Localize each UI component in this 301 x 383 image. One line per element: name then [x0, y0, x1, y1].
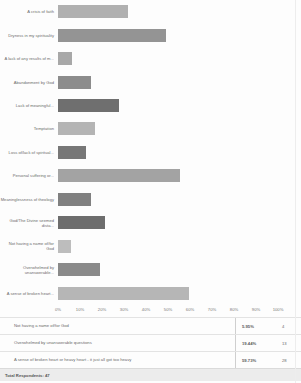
x-axis: 0%10%20%30%40%50%60%70%80%90%100% [58, 305, 301, 317]
bar-track [58, 164, 301, 187]
bar[interactable] [58, 216, 105, 229]
bar-track [58, 117, 301, 140]
bar[interactable] [58, 29, 166, 42]
bar-track [58, 211, 301, 234]
chart-row: A sense of broken heart... [0, 281, 301, 304]
bar-track [58, 281, 301, 304]
bar-track [58, 258, 301, 281]
chart-row: Lack of meaningful... [0, 94, 301, 117]
total-respondents-label: Total Respondents: 47 [0, 373, 50, 378]
table-row: A sense of broken heart or heavy heart -… [0, 351, 301, 368]
results-table: Not having a name of/for God5.95%4Overwh… [0, 317, 301, 381]
chart-row: Loss of/lack of spiritual... [0, 141, 301, 164]
table-row-percent: 59.73% [235, 352, 279, 368]
table-rows: Not having a name of/for God5.95%4Overwh… [0, 317, 301, 368]
category-label: Dryness in my spirituality [0, 33, 58, 38]
category-label: A crisis of faith [0, 9, 58, 14]
x-axis-tick: 80% [230, 307, 238, 312]
table-row: Not having a name of/for God5.95%4 [0, 317, 301, 334]
bar[interactable] [58, 169, 180, 182]
category-label: God/The Divine seemed dista... [0, 218, 58, 228]
bar[interactable] [58, 287, 189, 300]
survey-bar-chart-page: A crisis of faithDryness in my spiritual… [0, 0, 301, 383]
bar[interactable] [58, 193, 91, 206]
bar[interactable] [58, 5, 128, 18]
category-label: Not having a name of/for God [0, 241, 58, 251]
x-axis-tick: 100% [273, 307, 284, 312]
category-label: Lack of meaningful... [0, 103, 58, 108]
x-axis-tick: 10% [76, 307, 84, 312]
table-row-percent: 5.95% [235, 318, 279, 334]
category-label: A lack of any results of m... [0, 56, 58, 61]
category-label: Personal suffering or... [0, 173, 58, 178]
table-row-percent: 19.44% [235, 335, 279, 351]
chart-row: Temptation [0, 117, 301, 140]
chart-row: A lack of any results of m... [0, 47, 301, 70]
chart-row: Abandonment by God [0, 70, 301, 93]
bar-track [58, 0, 301, 23]
x-axis-tick: 90% [252, 307, 260, 312]
table-row-label: A sense of broken heart or heavy heart -… [0, 357, 235, 363]
bar[interactable] [58, 122, 95, 135]
chart-row: Meaninglessness of theology [0, 188, 301, 211]
total-respondents-row: Total Respondents: 47 [0, 368, 301, 381]
x-axis-tick: 60% [186, 307, 194, 312]
bar[interactable] [58, 52, 72, 65]
bar-track [58, 235, 301, 258]
category-label: A sense of broken heart... [0, 291, 58, 296]
table-row: Overwhelmed by unanswerable questions19.… [0, 334, 301, 351]
table-row-count: 13 [279, 341, 301, 346]
category-label: Overwhelmed by unanswerable... [0, 265, 58, 275]
x-axis-tick: 70% [208, 307, 216, 312]
x-axis-tick: 30% [120, 307, 128, 312]
chart-row: Overwhelmed by unanswerable... [0, 258, 301, 281]
bar[interactable] [58, 146, 86, 159]
bar-track [58, 23, 301, 46]
bar-track [58, 188, 301, 211]
table-row-label: Overwhelmed by unanswerable questions [0, 340, 235, 346]
table-row-count: 28 [279, 358, 301, 363]
bar-track [58, 47, 301, 70]
bar-track [58, 141, 301, 164]
chart-row: A crisis of faith [0, 0, 301, 23]
bar[interactable] [58, 240, 71, 253]
x-axis-tick: 40% [142, 307, 150, 312]
bar-chart: A crisis of faithDryness in my spiritual… [0, 0, 301, 305]
x-axis-tick: 20% [98, 307, 106, 312]
category-label: Temptation [0, 126, 58, 131]
category-label: Loss of/lack of spiritual... [0, 150, 58, 155]
chart-row: God/The Divine seemed dista... [0, 211, 301, 234]
x-axis-tick: 0% [55, 307, 61, 312]
category-label: Abandonment by God [0, 80, 58, 85]
chart-row: Dryness in my spirituality [0, 23, 301, 46]
table-row-count: 4 [279, 324, 301, 329]
table-row-label: Not having a name of/for God [0, 323, 235, 329]
bar[interactable] [58, 263, 100, 276]
x-axis-tick: 50% [164, 307, 172, 312]
bar-track [58, 70, 301, 93]
chart-row: Personal suffering or... [0, 164, 301, 187]
bar[interactable] [58, 99, 119, 112]
bar-track [58, 94, 301, 117]
chart-row: Not having a name of/for God [0, 235, 301, 258]
category-label: Meaninglessness of theology [0, 197, 58, 202]
bar[interactable] [58, 76, 91, 89]
